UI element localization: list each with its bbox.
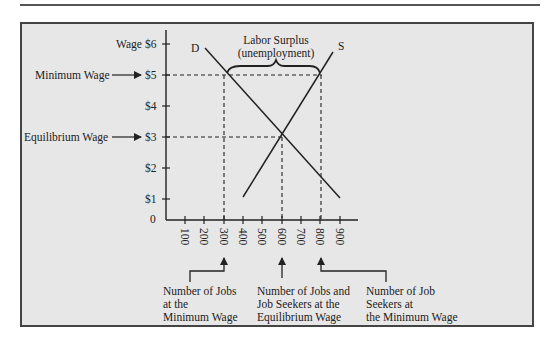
y-tick-label: $5 xyxy=(145,69,157,81)
note-jobs-at-min-wage: Number of Jobs at the Minimum Wage xyxy=(163,285,238,324)
svg-text:the Minimum Wage: the Minimum Wage xyxy=(366,311,458,324)
surplus-brace xyxy=(227,60,320,73)
note-job-seekers-at-min-wage: Number of Job Seekers at the Minimum Wag… xyxy=(366,285,458,324)
x-tick-labels: 100 200 300 400 500 600 700 800 900 xyxy=(179,228,346,246)
svg-text:700: 700 xyxy=(295,228,307,246)
min-wage-label: Minimum Wage xyxy=(35,69,110,82)
svg-text:200: 200 xyxy=(198,228,210,246)
reference-lines xyxy=(166,75,322,220)
supply-label: S xyxy=(338,40,344,52)
y-axis-title: Wage xyxy=(116,38,142,51)
svg-text:Number of Jobs: Number of Jobs xyxy=(163,285,237,297)
svg-text:300: 300 xyxy=(218,228,230,246)
surplus-label: Labor Surplus xyxy=(243,34,309,47)
y-tick-label: $1 xyxy=(145,193,157,205)
labor-market-chart: Wage $6 $5 $4 $3 $2 $1 0 100 200 300 400… xyxy=(0,0,556,344)
svg-text:Number of Job: Number of Job xyxy=(366,285,435,297)
svg-text:600: 600 xyxy=(276,228,288,246)
surplus-sublabel: (unemployment) xyxy=(238,47,315,60)
note-equilibrium: Number of Jobs and Job Seekers at the Eq… xyxy=(257,285,350,324)
demand-label: D xyxy=(191,42,199,54)
svg-text:Job Seekers at the: Job Seekers at the xyxy=(257,298,340,310)
y-tick-label: $3 xyxy=(145,131,157,143)
y-tick-label: 0 xyxy=(150,213,156,225)
svg-text:500: 500 xyxy=(256,228,268,246)
callout-arrow-800 xyxy=(321,258,386,282)
svg-text:at the: at the xyxy=(163,298,188,310)
y-tick-label: $4 xyxy=(145,100,157,112)
svg-text:800: 800 xyxy=(314,228,326,246)
svg-text:Number of Jobs and: Number of Jobs and xyxy=(257,285,350,297)
svg-text:Minimum Wage: Minimum Wage xyxy=(163,311,238,324)
svg-text:Seekers at: Seekers at xyxy=(366,298,414,310)
svg-text:900: 900 xyxy=(334,228,346,246)
svg-text:400: 400 xyxy=(237,228,249,246)
y-tick-label: $6 xyxy=(145,38,157,50)
callout-arrow-300 xyxy=(190,258,224,282)
y-tick-label: $2 xyxy=(145,162,157,174)
svg-text:Equilibrium Wage: Equilibrium Wage xyxy=(257,311,341,324)
eq-wage-label: Equilibrium Wage xyxy=(24,131,108,144)
svg-text:100: 100 xyxy=(179,228,191,246)
